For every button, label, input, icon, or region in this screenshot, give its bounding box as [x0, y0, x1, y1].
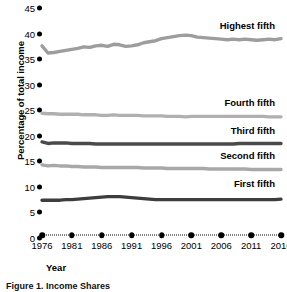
y-axis-title: Percentage of total income [15, 26, 26, 176]
x-axis-tick-dot [159, 232, 165, 238]
x-axis-tick-dot [278, 232, 284, 238]
series-label-second-fifth: Second fifth [220, 150, 275, 161]
y-axis-tick-label: 5 [30, 207, 35, 218]
x-axis-tick-dot [39, 232, 45, 238]
x-axis-tick-label: 2016 [270, 240, 287, 251]
y-axis-tick: 25 [24, 105, 42, 116]
x-axis-tick-label: 1991 [121, 240, 142, 251]
x-axis-tick-label: 2006 [211, 240, 232, 251]
x-axis-tick-label: 1976 [31, 240, 52, 251]
x-axis-tick-label: 1996 [151, 240, 172, 251]
series-label-first-fifth: First fifth [234, 177, 275, 188]
y-axis-tick-label: 15 [24, 156, 35, 167]
series-label-fourth-fifth: Fourth fifth [224, 97, 275, 108]
series-label-highest-fifth: Highest fifth [220, 20, 275, 31]
y-axis-tick: 35 [24, 54, 42, 65]
income-shares-figure: Percentage of total income 0510152025303… [0, 0, 287, 292]
x-axis-tick-dot [189, 232, 195, 238]
x-axis-tick-label: 1981 [61, 240, 82, 251]
x-axis-tick-dot [69, 232, 75, 238]
y-axis-tick: 5 [30, 207, 42, 218]
series-line-second-fifth [42, 165, 281, 170]
figure-caption: Figure 1. Income Shares [6, 281, 110, 291]
series-line-first-fifth [42, 197, 281, 201]
series-line-third-fifth [42, 142, 281, 144]
y-axis-tick: 40 [24, 28, 42, 39]
x-axis-tick-dot [129, 232, 135, 238]
y-axis-tick-label: 25 [24, 105, 35, 116]
series-line-highest-fifth [42, 35, 281, 53]
x-axis-tick-label: 1986 [91, 240, 112, 251]
y-axis-tick: 30 [24, 79, 42, 90]
y-axis-tick-label: 10 [24, 181, 35, 192]
y-axis-tick-label: 20 [24, 130, 35, 141]
y-axis-tick-label: 35 [24, 54, 35, 65]
y-axis-tick: 20 [24, 130, 42, 141]
series-line-fourth-fifth [42, 113, 281, 117]
x-axis-tick-dot [219, 232, 225, 238]
x-axis: 197619811986199119962001200620112016 [42, 232, 281, 238]
x-axis-title: Year [46, 262, 66, 273]
y-axis-tick-label: 45 [24, 3, 35, 14]
y-axis-tick-label: 40 [24, 28, 35, 39]
series-label-third-fifth: Third fifth [231, 125, 275, 136]
x-axis-tick-label: 2011 [241, 240, 261, 251]
x-axis-tick-dot [248, 232, 254, 238]
plot-area: 051015202530354045 Highest fifthFourth f… [42, 8, 281, 238]
y-axis-tick: 15 [24, 156, 42, 167]
series-lines [42, 8, 281, 238]
y-axis-tick: 10 [24, 181, 42, 192]
x-axis-tick-dot [99, 232, 105, 238]
x-axis-tick-label: 2001 [181, 240, 202, 251]
y-axis-tick-label: 30 [24, 79, 35, 90]
y-axis-tick: 45 [24, 3, 42, 14]
